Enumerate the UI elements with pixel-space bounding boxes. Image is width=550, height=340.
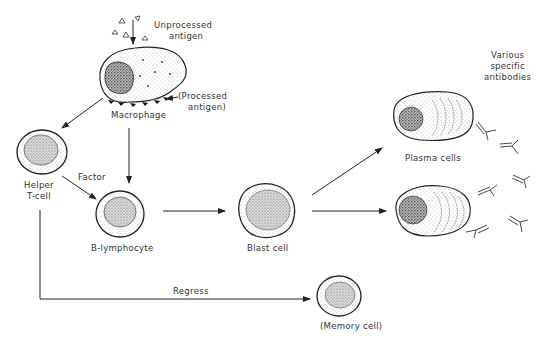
processed-antigen-label: (Processed antigen) xyxy=(178,91,227,113)
unprocessed-antigen-line1: Unprocessed xyxy=(154,20,212,31)
helper-tcell-icon xyxy=(17,130,67,174)
unprocessed-antigen-line2: antigen xyxy=(154,31,212,42)
plasma-cells-label: Plasma cells xyxy=(405,153,461,164)
plasma-cell-bottom-icon xyxy=(396,186,470,236)
regress-label: Regress xyxy=(173,286,209,297)
processed-antigen-line2: antigen) xyxy=(178,102,227,113)
arrow-blast-to-plasma-top xyxy=(312,148,382,195)
blast-cell-label: Blast cell xyxy=(247,243,289,254)
arrow-macrophage-to-helper xyxy=(62,98,103,128)
antibodies-line3: antibodies xyxy=(484,72,531,83)
factor-label: Factor xyxy=(78,172,106,183)
memory-cell-label: (Memory cell) xyxy=(320,321,382,332)
antigen-triangles-icon xyxy=(112,16,148,40)
helper-tcell-line2: T-cell xyxy=(24,191,54,202)
immune-response-diagram xyxy=(0,0,550,340)
blast-cell-icon xyxy=(239,184,295,238)
antibodies-line1: Various xyxy=(484,50,531,61)
processed-antigen-line1: (Processed xyxy=(178,91,227,102)
antibody-icons xyxy=(466,122,530,238)
helper-tcell-line1: Helper xyxy=(24,180,54,191)
b-lymphocyte-label: B-lymphocyte xyxy=(91,243,153,254)
helper-tcell-label: Helper T-cell xyxy=(24,180,54,202)
b-lymphocyte-icon xyxy=(96,191,144,237)
unprocessed-antigen-label: Unprocessed antigen xyxy=(154,20,212,42)
antibodies-line2: specific xyxy=(484,61,531,72)
macrophage-label: Macrophage xyxy=(111,110,166,121)
plasma-cell-top-icon xyxy=(394,92,474,141)
memory-cell-icon xyxy=(317,276,361,316)
various-antibodies-label: Various specific antibodies xyxy=(484,50,531,83)
